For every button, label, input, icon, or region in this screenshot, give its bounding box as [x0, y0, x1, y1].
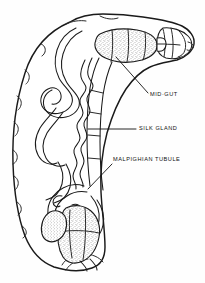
label-silk-gland: SILK GLAND — [139, 125, 177, 131]
anatomy-line-drawing: MID·GUT SILK GLAND MALPIGHIAN TUBULE — [0, 0, 205, 283]
anatomy-figure: MID·GUT SILK GLAND MALPIGHIAN TUBULE — [0, 0, 205, 283]
label-mid-gut: MID·GUT — [150, 91, 178, 97]
labels-group: MID·GUT SILK GLAND MALPIGHIAN TUBULE — [113, 91, 180, 162]
label-malpighian-tubule: MALPIGHIAN TUBULE — [113, 156, 180, 162]
